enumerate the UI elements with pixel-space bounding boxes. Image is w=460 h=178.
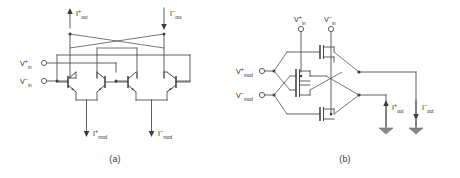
current-arrow-i-out-plus-b — [383, 100, 389, 118]
label-i-mod-plus: I+mod — [93, 128, 108, 140]
caption-a: (a) — [0, 154, 230, 164]
schematic-b: V+in V−in V+mod V−mod — [230, 0, 460, 150]
panel-a-bipolar: I+out I−out — [0, 0, 230, 178]
input-terminal-v-in-minus[interactable] — [41, 78, 57, 83]
mosfet-m2 — [296, 69, 359, 95]
figure-root: I+out I−out — [0, 0, 460, 178]
label-i-out-minus-b: I−out — [422, 102, 434, 114]
input-terminal-v-mod-minus[interactable] — [259, 92, 275, 97]
label-i-out-plus: I+out — [76, 8, 88, 20]
label-i-mod-minus: I−mod — [158, 128, 173, 140]
ground-symbol-right — [409, 120, 423, 134]
mosfet-m4 — [320, 95, 359, 121]
current-arrow-i-mod-minus — [149, 120, 155, 137]
label-i-out-minus: I−out — [170, 8, 182, 20]
label-i-out-plus-b: I+out — [392, 102, 404, 114]
input-terminal-v-mod-plus[interactable] — [259, 68, 275, 73]
panel-b-cmos: V+in V−in V+mod V−mod — [230, 0, 460, 178]
mod-routing — [274, 52, 320, 114]
current-arrow-i-mod-plus — [84, 120, 90, 137]
label-v-in-minus: V−in — [20, 76, 32, 88]
label-v-in-plus-b: V+in — [294, 14, 306, 26]
current-arrow-i-out-minus — [161, 8, 167, 30]
caption-b: (b) — [230, 154, 460, 164]
tail-node-right — [136, 100, 167, 120]
label-v-mod-minus: V−mod — [236, 90, 253, 102]
schematic-a: I+out I−out — [0, 0, 230, 150]
bjt-q3 — [116, 72, 137, 100]
bjt-q4 — [164, 72, 190, 100]
bjt-q1 — [57, 72, 76, 100]
label-v-in-plus: V+in — [20, 58, 32, 70]
input-terminal-v-in-plus[interactable] — [41, 60, 116, 72]
output-nodes — [357, 70, 416, 126]
bjt-q2 — [97, 72, 116, 100]
current-arrow-i-out-plus — [67, 8, 73, 28]
label-v-in-minus-b: V−in — [324, 14, 336, 26]
tail-node-left — [76, 100, 97, 120]
ground-symbol-left — [379, 118, 393, 134]
input-terminal-v-in-plus-b[interactable] — [298, 26, 303, 72]
mosfet-m1 — [320, 45, 359, 72]
current-arrow-i-out-minus-b — [413, 100, 419, 120]
label-v-mod-plus: V+mod — [236, 66, 253, 78]
input-terminal-v-in-minus-b[interactable] — [328, 26, 333, 115]
